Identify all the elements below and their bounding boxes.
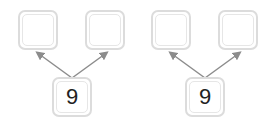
bond-2-arrows xyxy=(172,54,238,78)
part-value xyxy=(220,12,256,48)
whole-value: 9 xyxy=(54,79,90,115)
arrow-left-icon xyxy=(39,54,72,78)
arrow-right-icon xyxy=(205,54,238,78)
whole-box: 9 xyxy=(52,77,92,117)
part-box-left[interactable] xyxy=(18,10,58,50)
bond-1-arrows xyxy=(39,54,105,78)
whole-value: 9 xyxy=(187,79,223,115)
whole-box: 9 xyxy=(185,77,225,117)
part-box-right[interactable] xyxy=(85,10,125,50)
part-box-left[interactable] xyxy=(151,10,191,50)
part-value xyxy=(20,12,56,48)
part-box-right[interactable] xyxy=(218,10,258,50)
part-value xyxy=(87,12,123,48)
part-value xyxy=(153,12,189,48)
arrow-right-icon xyxy=(72,54,105,78)
arrow-left-icon xyxy=(172,54,205,78)
